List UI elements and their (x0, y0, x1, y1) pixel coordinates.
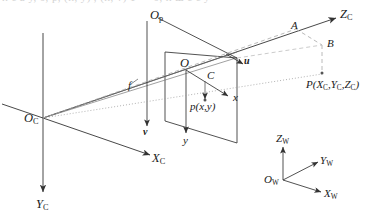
projection-box (237, 29, 324, 75)
label-axis-zw: ZW (276, 133, 289, 146)
figure-root: и с в у, 0, р, (и, у) , (и, v) 1 — 0, н … (0, 0, 369, 222)
label-world-origin: OW (264, 174, 279, 187)
ray-oc-to-p-dotted (43, 74, 322, 118)
label-axis-v: v (143, 127, 147, 137)
label-focal-length: f (128, 80, 131, 91)
ray-oc-to-a-dashed (43, 29, 296, 118)
label-axis-xw: XW (324, 188, 338, 201)
label-point-c: C (207, 70, 214, 81)
label-axis-yw: YW (320, 155, 333, 168)
label-camera-origin: OC (24, 112, 39, 126)
axis-xc-line (43, 118, 150, 155)
label-image-point: p(x,y) (190, 101, 215, 112)
label-axis-yc: YC (36, 198, 48, 212)
label-axis-zc: ZC (340, 8, 352, 22)
label-axis-y: y (183, 135, 188, 146)
label-world-point: P(XC,YC,ZC) (306, 79, 359, 92)
world-axes (283, 147, 321, 192)
projection-geometry-drawing (0, 0, 369, 222)
edge-a-to-b (296, 29, 322, 45)
image-plane (165, 52, 237, 143)
image-plane-quad (165, 52, 237, 143)
axis-u-line (226, 54, 243, 64)
label-axis-u: u (244, 56, 250, 66)
label-axis-xc: XC (152, 152, 165, 166)
axis-yw-line (283, 162, 318, 180)
axis-xw-line (283, 180, 321, 192)
image-point-group (204, 81, 207, 102)
world-point-marker (321, 72, 324, 75)
camera-axes (2, 18, 336, 192)
label-corner-b: B (327, 38, 334, 49)
label-corner-a: A (291, 20, 298, 31)
label-pixel-origin: Op (150, 9, 163, 23)
label-axis-x: x (233, 92, 238, 103)
focal-tick-line (131, 79, 138, 84)
label-image-origin: O (180, 57, 189, 70)
